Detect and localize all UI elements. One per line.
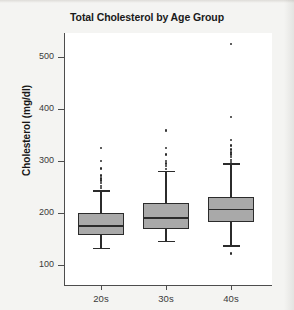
boxplot-40s: [0, 0, 294, 310]
whisker-cap-upper: [223, 163, 240, 165]
outlier-point: [230, 252, 233, 255]
chart-page: Total Cholesterol by Age Group Cholester…: [0, 0, 294, 310]
whisker-lower: [230, 222, 231, 245]
outlier-point: [230, 139, 233, 142]
outlier-point: [230, 116, 233, 119]
outlier-point: [230, 43, 233, 46]
outlier-point: [230, 148, 233, 151]
whisker-upper: [230, 164, 231, 197]
whisker-cap-lower: [223, 245, 240, 247]
median-line: [208, 209, 254, 211]
outlier-point: [230, 144, 233, 147]
